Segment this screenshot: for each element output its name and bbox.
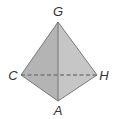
- vertex-label-c: C: [8, 68, 18, 83]
- vertex-label-a: A: [53, 103, 63, 118]
- vertex-label-h: H: [99, 68, 109, 83]
- tetrahedron-diagram: G C H A: [0, 0, 115, 119]
- face-gca: [21, 22, 58, 101]
- face-gah: [58, 22, 97, 101]
- vertex-label-g: G: [53, 4, 63, 19]
